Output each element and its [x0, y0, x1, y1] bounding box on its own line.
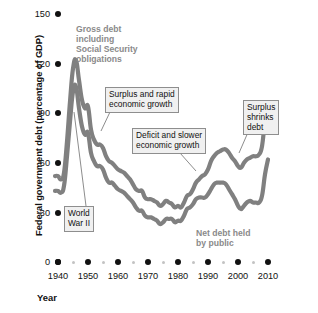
- annotation-gross-debt: Gross debt including Social Security obl…: [76, 24, 138, 65]
- annotation-net-debt: Net debt held by public: [196, 228, 250, 248]
- annotation-surplus-shrinks-debt: Surplus shrinks debt: [243, 100, 279, 135]
- annotation-surplus-rapid-growth: Surplus and rapid economic growth: [105, 87, 179, 113]
- chart-container: Federal government debt (percentage of G…: [0, 0, 318, 313]
- annotation-deficit-slower-growth: Deficit and slower economic growth: [132, 128, 206, 154]
- annotation-world-war-two: World War II: [64, 206, 94, 232]
- plot-area: [0, 0, 318, 313]
- leader-lines: [74, 112, 249, 206]
